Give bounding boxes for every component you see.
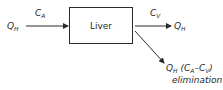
- elimination-arrow: [135, 31, 164, 63]
- liver-label: Liver: [69, 7, 133, 44]
- elimination-label: elimination: [172, 75, 222, 85]
- outflow-conc-label: CV: [150, 8, 160, 18]
- elimination-expression: QH (CA–CV): [166, 63, 213, 73]
- inflow-conc-label: CA: [35, 8, 45, 18]
- inflow-flow-label: QH: [7, 21, 19, 31]
- outflow-flow-label: QH: [174, 21, 186, 31]
